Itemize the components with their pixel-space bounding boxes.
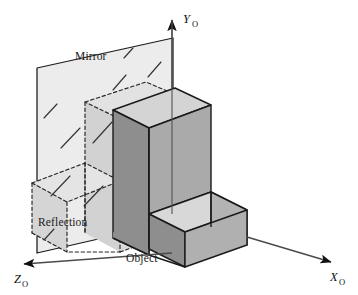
diagram-canvas: Mirror Reflection Object Y O X O Z O	[0, 0, 358, 295]
reflection-label: Reflection	[38, 216, 87, 228]
z-axis-label-base: Z	[14, 272, 22, 286]
y-axis-label: Y O	[183, 12, 198, 29]
y-axis-label-base: Y	[183, 12, 192, 26]
z-axis-label: Z O	[14, 272, 28, 289]
x-axis-line	[247, 237, 331, 262]
x-axis-label-sub: O	[339, 277, 345, 287]
z-axis-label-sub: O	[22, 279, 28, 289]
object-block-group	[113, 88, 247, 267]
x-axis-label: X O	[329, 270, 345, 287]
mirror-label: Mirror	[75, 50, 107, 62]
object-tall-left-face	[113, 110, 149, 255]
x-axis-group	[247, 237, 331, 262]
reflection-mirror-diagram: Mirror Reflection Object Y O X O Z O	[0, 0, 358, 295]
x-axis-label-base: X	[329, 270, 339, 284]
object-label: Object	[126, 252, 158, 265]
y-axis-label-sub: O	[192, 19, 198, 29]
